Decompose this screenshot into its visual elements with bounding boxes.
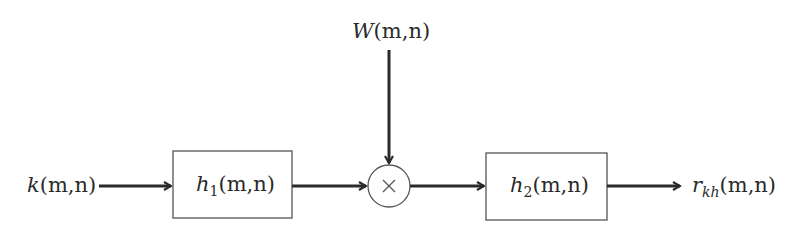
output-sub: kh (702, 184, 720, 200)
block-diagram: k(m,n) W(m,n) h1(m,n) h2(m,n) rkh(m,n) (0, 0, 794, 235)
input-args: (m,n) (40, 173, 97, 197)
input-label: k(m,n) (27, 175, 96, 196)
h1-func: h (196, 172, 210, 196)
h1-args: (m,n) (218, 172, 275, 196)
block-h2-label: h2(m,n) (510, 175, 589, 199)
h2-args: (m,n) (532, 173, 589, 197)
w-func: W (352, 19, 374, 43)
block-h1-label: h1(m,n) (196, 174, 275, 198)
w-args: (m,n) (374, 19, 431, 43)
output-label: rkh(m,n) (692, 175, 776, 199)
h2-func: h (510, 173, 524, 197)
multiplier-input-label: W(m,n) (352, 21, 430, 42)
output-args: (m,n) (720, 173, 777, 197)
input-func: k (27, 173, 40, 197)
output-func: r (692, 173, 702, 197)
